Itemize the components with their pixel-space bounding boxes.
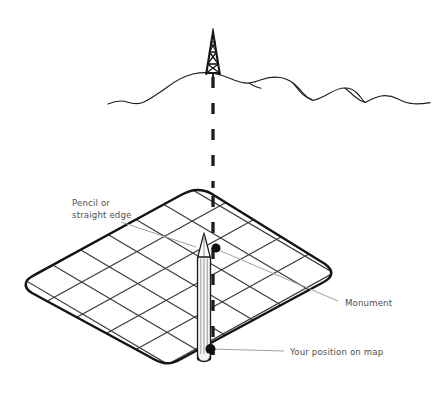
monument-label: Monument: [345, 298, 393, 308]
your-position-dot: [206, 344, 216, 354]
map-orientation-diagram: Pencil or straight edge Monument Your po…: [0, 0, 434, 410]
pencil-label-line1: Pencil or: [72, 198, 110, 208]
pencil: [198, 233, 211, 362]
pencil-label-line2: straight edge: [72, 210, 131, 220]
your-position-label: Your position on map: [289, 347, 383, 357]
monument-map-dot: [212, 244, 221, 253]
